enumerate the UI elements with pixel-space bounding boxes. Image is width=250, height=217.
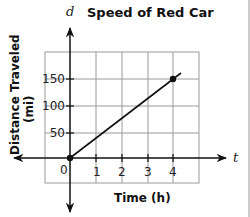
y-axis-label-line1: Distance Traveled (8, 34, 22, 155)
data-point-origin (67, 155, 73, 161)
chart-title: Speed of Red Car (87, 5, 214, 20)
x-tick-0: 0 (60, 163, 68, 177)
data-line (70, 73, 181, 158)
x-tick-4: 4 (169, 165, 177, 179)
x-variable-label: t (233, 150, 239, 165)
chart: 0 1 2 3 4 50 100 150 d t Speed of Red Ca… (0, 0, 250, 217)
x-tick-3: 3 (144, 165, 152, 179)
y-tick-150: 150 (42, 72, 65, 86)
y-tick-50: 50 (50, 126, 65, 140)
y-variable-label: d (66, 4, 74, 19)
y-axis-label-line2: (mi) (22, 95, 36, 123)
y-tick-100: 100 (42, 99, 65, 113)
x-axis-label: Time (h) (114, 191, 171, 205)
x-tick-1: 1 (93, 165, 101, 179)
data-point-4-150 (170, 76, 176, 82)
x-tick-2: 2 (118, 165, 126, 179)
